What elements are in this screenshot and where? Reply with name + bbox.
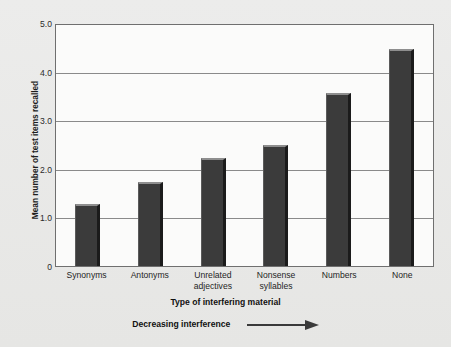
y-tick-label: 3.0 [6,116,52,126]
plot-area [55,24,434,267]
x-tick-label-line: Unrelated [181,270,244,281]
bar-slot [56,25,119,266]
x-tick-label: Antonyms [118,270,181,291]
y-tick-label: 2.0 [6,165,52,175]
bar-antonyms[interactable] [138,182,163,266]
figure-container: Mean number of test items recalled 01.02… [0,0,451,347]
x-tick-label-line: syllables [245,281,308,292]
x-tick-label: Synonyms [55,270,118,291]
x-axis-tick-labels: SynonymsAntonymsUnrelatedadjectivesNonse… [55,270,434,291]
x-tick-label-line: adjectives [181,281,244,292]
y-tick-label: 4.0 [6,68,52,78]
bar-slot [370,25,433,266]
x-tick-label: None [371,270,434,291]
y-tick-label: 0 [6,262,52,272]
bar-slot [245,25,308,266]
annotation-text: Decreasing interference [132,319,230,329]
bar-nonsense-syllables[interactable] [263,145,288,267]
y-tick-label: 5.0 [6,19,52,29]
x-tick-label-line: None [371,270,434,281]
x-tick-label: Unrelatedadjectives [181,270,244,291]
y-tick-label: 1.0 [6,213,52,223]
x-tick-label: Numbers [308,270,371,291]
interference-annotation: Decreasing interference [0,319,451,331]
bar-slot [307,25,370,266]
x-tick-label-line: Antonyms [118,270,181,281]
bar-slot [182,25,245,266]
x-tick-label-line: Synonyms [55,270,118,281]
bar-synonyms[interactable] [75,204,100,266]
bar-unrelated-adjectives[interactable] [201,158,226,266]
x-tick-label: Nonsensesyllables [245,270,308,291]
y-axis-tick-labels: 01.02.03.04.05.0 [0,0,52,347]
right-arrow-icon [247,319,319,331]
x-tick-label-line: Numbers [308,270,371,281]
bar-numbers[interactable] [326,93,351,266]
x-tick-label-line: Nonsense [245,270,308,281]
bar-slot [119,25,182,266]
bar-series [56,25,433,266]
x-axis-title: Type of interfering material [0,297,451,307]
bar-none[interactable] [389,49,414,266]
